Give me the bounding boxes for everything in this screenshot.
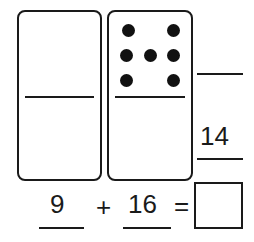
pip [120,74,133,87]
pip [167,24,180,37]
domino-right-divider [115,96,185,98]
pip [122,24,135,37]
pip [167,74,180,87]
addend-1: 9 [50,191,64,217]
answer-box[interactable] [194,182,243,229]
pip [144,49,157,62]
addend-1-line [39,227,84,229]
top-answer-blank-line[interactable] [197,73,243,75]
addend-2: 16 [128,191,157,217]
domino-right [107,10,193,181]
addend-2-line [123,227,171,229]
domino-left-divider [25,96,94,98]
bottom-side-line [197,158,243,160]
bottom-side-value: 14 [200,123,229,149]
equals-sign: = [174,193,189,219]
domino-left [17,10,102,181]
plus-sign: + [96,194,111,220]
pip [167,49,180,62]
pip [120,49,133,62]
